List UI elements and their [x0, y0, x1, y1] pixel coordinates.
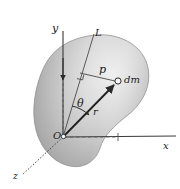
mass-element-point [115, 78, 121, 84]
perpendicular-distance-label: p [99, 64, 106, 75]
physics-diagram-figure: y L x z O p dm r θ [0, 0, 180, 189]
x-axis-label: x [163, 141, 169, 151]
line-L-label: L [95, 28, 102, 38]
z-axis-label: z [13, 172, 18, 181]
position-vector-label: r [93, 107, 98, 117]
angle-theta-label: θ [77, 98, 84, 109]
mass-element-label: dm [124, 75, 140, 85]
rigid-body-blob [34, 35, 149, 167]
y-axis-label: y [52, 23, 58, 34]
origin-point [61, 134, 65, 138]
origin-label: O [53, 131, 61, 141]
diagram-canvas [0, 0, 180, 189]
